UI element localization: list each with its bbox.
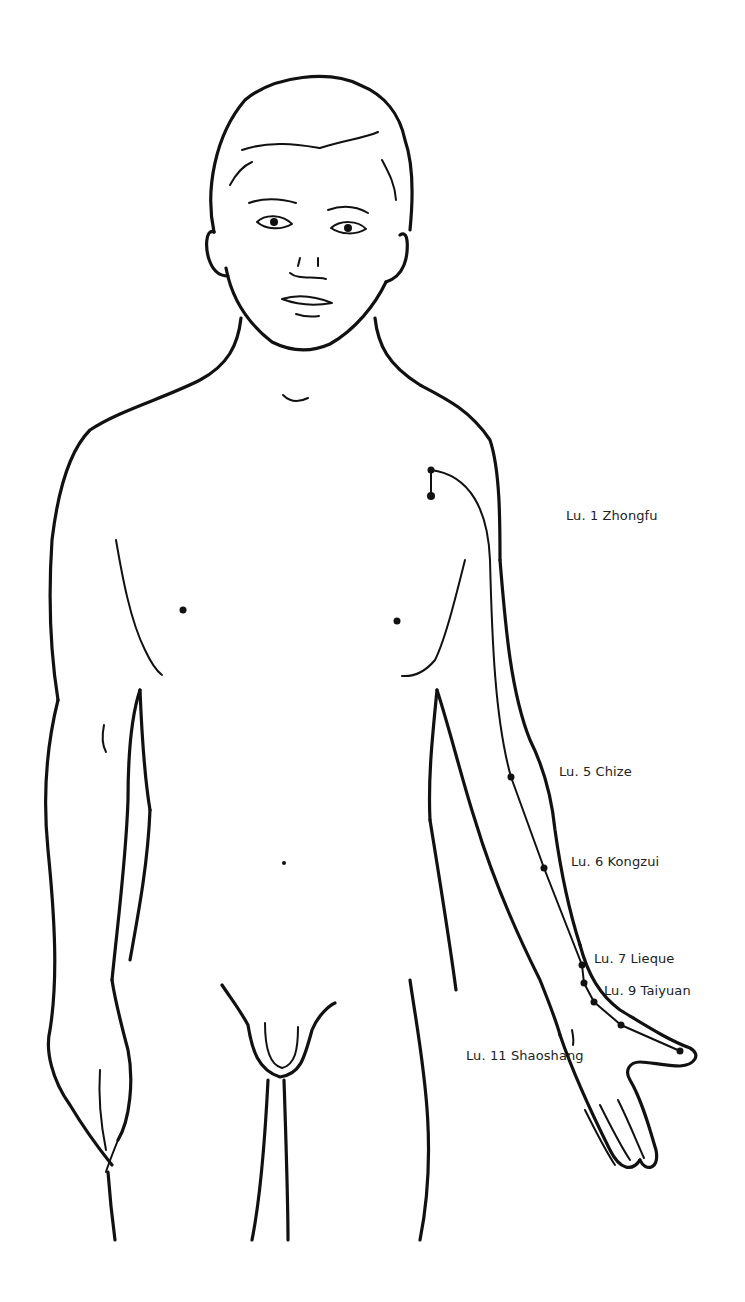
torso — [50, 318, 500, 1240]
body-diagram — [0, 0, 745, 1302]
acupoint-lu1 — [427, 492, 435, 500]
label-lu5: Lu. 5 Chize — [559, 764, 632, 779]
acupoint-lu10b — [618, 1022, 625, 1029]
acupoints — [427, 467, 684, 1055]
label-lu9: Lu. 9 Taiyuan — [604, 983, 691, 998]
acupoint-lu7 — [579, 962, 586, 969]
head — [207, 77, 412, 350]
acupoint-lu11 — [677, 1048, 684, 1055]
label-lu1: Lu. 1 Zhongfu — [566, 508, 658, 523]
label-lu7: Lu. 7 Lieque — [594, 951, 674, 966]
left-arm — [46, 690, 140, 1240]
label-lu11: Lu. 11 Shaoshang — [466, 1048, 584, 1063]
acupoint-lu5 — [508, 774, 515, 781]
acupoint-lu10 — [591, 999, 598, 1006]
acupoint-lu6 — [541, 865, 548, 872]
label-lu6: Lu. 6 Kongzui — [571, 854, 659, 869]
acupoint-lu9 — [581, 980, 588, 987]
acupoint-lu1-upper — [428, 467, 435, 474]
